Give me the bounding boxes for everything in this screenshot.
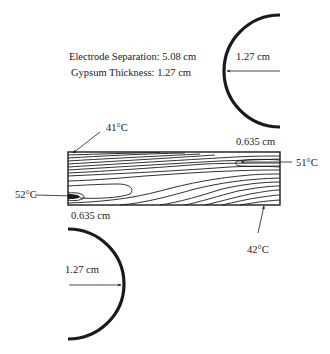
- electrode-bottom-left: [68, 229, 124, 339]
- diagram-canvas: Electrode Separation: 5.08 cm Gypsum Thi…: [0, 0, 330, 354]
- gypsum-specimen: [68, 152, 280, 205]
- electrode-separation-label: Electrode Separation: 5.08 cm: [69, 51, 196, 63]
- temperature-42c-label: 42°C: [247, 244, 269, 256]
- temperature-52c-label: 52°C: [15, 189, 37, 201]
- temperature-51c-label: 51°C: [296, 157, 318, 169]
- temperature-41c-label: 41°C: [106, 122, 128, 134]
- offset-top-right-label: 0.635 cm: [236, 136, 275, 148]
- gypsum-thickness-label: Gypsum Thickness: 1.27 cm: [71, 67, 191, 79]
- electrode-arc-bottom-left: [68, 229, 124, 339]
- offset-bottom-left-label: 0.635 cm: [71, 210, 110, 222]
- leader-arrow-42c: [258, 206, 264, 233]
- top-electrode-radius-label: 1.27 cm: [236, 51, 270, 63]
- electrode-top-right: [224, 15, 280, 127]
- bottom-electrode-radius-label: 1.27 cm: [65, 264, 99, 276]
- leader-arrow-41c: [73, 132, 100, 153]
